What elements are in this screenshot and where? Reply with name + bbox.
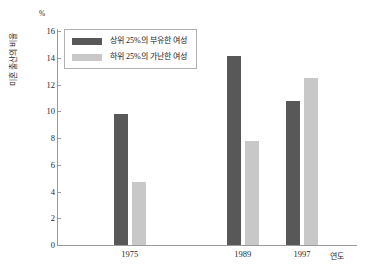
legend-item-poor: 하위 25%의 가난한 여성 bbox=[72, 51, 187, 63]
bar-chart: 미혼 출산의 비율 % 1614121086420 197519891997 연… bbox=[0, 0, 371, 276]
y-axis-tick-label: 0 bbox=[0, 241, 55, 250]
bar bbox=[132, 182, 146, 245]
y-axis-tick-label: 6 bbox=[0, 161, 55, 170]
legend-label-rich: 상위 25%의 부유한 여성 bbox=[110, 37, 187, 45]
bar bbox=[286, 101, 300, 245]
legend-swatch-rich-icon bbox=[72, 38, 102, 45]
bar bbox=[245, 141, 259, 245]
chart-legend: 상위 25%의 부유한 여성 하위 25%의 가난한 여성 bbox=[64, 29, 197, 69]
y-axis-tick-label: 2 bbox=[0, 214, 55, 223]
y-axis-tick-label: 8 bbox=[0, 134, 55, 143]
y-axis-unit-label: % bbox=[39, 9, 45, 18]
bar bbox=[114, 114, 128, 245]
legend-item-rich: 상위 25%의 부유한 여성 bbox=[72, 35, 187, 47]
x-axis-tick-label: 1997 bbox=[294, 250, 311, 259]
y-axis-tick-label: 10 bbox=[0, 107, 55, 116]
y-axis-tick-label: 16 bbox=[0, 27, 55, 36]
y-axis-tick-mark bbox=[57, 245, 61, 246]
x-axis-line bbox=[57, 245, 357, 246]
x-axis-tick-label: 1975 bbox=[121, 250, 138, 259]
y-axis-tick-label: 14 bbox=[0, 54, 55, 63]
x-axis-tick-label: 1989 bbox=[234, 250, 251, 259]
bar bbox=[304, 78, 318, 245]
legend-swatch-poor-icon bbox=[72, 54, 102, 61]
bar bbox=[227, 56, 241, 245]
x-axis-title: 연도 bbox=[330, 250, 344, 261]
y-axis-tick-label: 4 bbox=[0, 187, 55, 196]
y-axis-tick-label: 12 bbox=[0, 80, 55, 89]
legend-label-poor: 하위 25%의 가난한 여성 bbox=[110, 53, 187, 61]
